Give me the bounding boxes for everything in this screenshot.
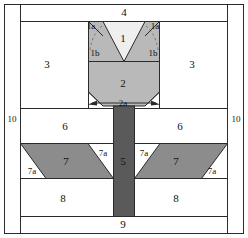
label-3-left: 3 — [44, 58, 50, 70]
label-8-left: 8 — [60, 192, 66, 204]
label-6-left: 6 — [62, 120, 68, 132]
label-1a-left: 1a — [87, 21, 96, 31]
label-3-right: 3 — [189, 58, 195, 70]
label-1: 1 — [120, 32, 126, 44]
label-1a-right: 1a — [151, 21, 160, 31]
label-8-right: 8 — [173, 192, 179, 204]
label-2a: 2a — [119, 98, 128, 108]
label-7-left: 7 — [63, 155, 69, 167]
label-7a-inner-left: 7a — [99, 148, 108, 158]
label-1b-right: 1b — [149, 48, 159, 58]
label-4: 4 — [121, 6, 127, 18]
label-7a-inner-right: 7a — [140, 148, 149, 158]
label-9: 9 — [120, 218, 126, 230]
piece-background-left-3 — [21, 22, 89, 109]
label-5: 5 — [120, 155, 126, 167]
label-7a-outer-right: 7a — [208, 166, 217, 176]
label-10-left: 10 — [8, 114, 18, 124]
quilt-block-diagram: 4 1a 1a 1 1b 1b 3 3 2 2a 10 10 6 6 7 7 7… — [0, 0, 248, 238]
label-10-right: 10 — [232, 114, 242, 124]
diagram-canvas: 4 1a 1a 1 1b 1b 3 3 2 2a 10 10 6 6 7 7 7… — [0, 0, 248, 238]
label-2: 2 — [120, 77, 126, 89]
label-6-right: 6 — [177, 120, 183, 132]
label-7-right: 7 — [173, 155, 179, 167]
label-1b-left: 1b — [91, 48, 101, 58]
label-7a-outer-left: 7a — [28, 166, 37, 176]
